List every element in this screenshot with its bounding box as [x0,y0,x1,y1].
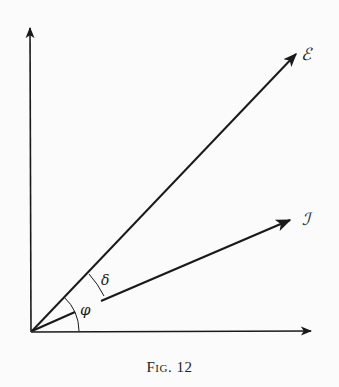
x-axis [31,331,311,332]
y-axis [30,28,31,332]
current-vector-arrow [101,220,290,301]
caption-number: 12 [176,359,192,375]
current-vector-segment-short [32,312,75,331]
phasor-diagram: ℰ ℐ φ δ [0,0,339,387]
voltage-vector-arrow [32,54,296,331]
figure-caption: Fig. 12 [0,359,339,376]
current-vector-label: ℐ [302,209,313,229]
voltage-vector-label: ℰ [301,44,313,64]
caption-prefix: Fig. [147,359,173,375]
angle-phi-label: φ [80,301,91,319]
angle-delta-label: δ [101,272,109,288]
